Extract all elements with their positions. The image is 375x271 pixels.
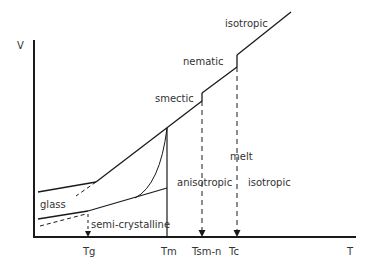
- melting-curve: [135, 128, 167, 198]
- smectic-line: [96, 101, 202, 182]
- x-axis-label: T: [347, 247, 353, 257]
- label-anisotropic: anisotropic: [177, 178, 232, 188]
- label-glass: glass: [40, 200, 66, 210]
- label-isotropic-region: isotropic: [248, 178, 291, 188]
- label-nematic: nematic: [183, 57, 224, 67]
- label-isotropic-top: isotropic: [225, 19, 268, 29]
- tick-label-tc: Tc: [229, 247, 239, 257]
- y-axis-label: V: [17, 41, 24, 51]
- label-semi-crystalline: semi-crystalline: [91, 220, 170, 230]
- label-smectic: smectic: [155, 94, 194, 104]
- tick-label-tm: Tm: [161, 247, 177, 257]
- semicrystalline-extrapolation: [40, 214, 86, 226]
- tick-label-tg: Tg: [83, 247, 95, 257]
- label-melt: melt: [230, 152, 253, 162]
- semicrystalline-line-high: [88, 188, 167, 211]
- diagram-canvas: [0, 0, 375, 271]
- semicrystalline-line-low: [38, 211, 88, 219]
- tsmn-arrowhead: [199, 230, 206, 237]
- tick-label-tsmn: Tsm-n: [192, 247, 221, 257]
- phase-diagram: V T Tg Tm Tsm-n Tc glass semi-crystallin…: [0, 0, 375, 271]
- nematic-line: [202, 67, 237, 93]
- glass-line-upper: [38, 182, 96, 192]
- tc-arrowhead: [234, 230, 241, 237]
